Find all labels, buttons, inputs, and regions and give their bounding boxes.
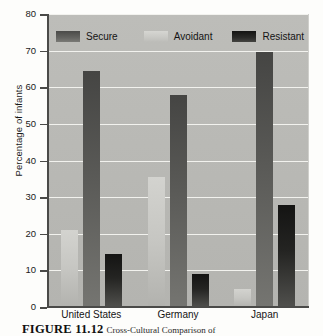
y-tick [40,87,47,89]
y-tick [40,14,47,16]
legend-swatch-resistant [232,31,256,42]
bar-germany-avoidant [148,177,165,307]
y-tick [40,197,47,199]
bar-japan-secure [256,52,273,307]
y-tick-label: 40 [2,155,36,166]
x-axis-line [47,306,309,308]
y-axis-title: Percentage of infants [13,51,24,211]
bar-united-states-secure [83,71,100,307]
y-tick [40,124,47,126]
y-tick-label: 10 [2,264,36,275]
bar-japan-resistant [278,205,295,307]
x-axis-label-united-states: United States [48,309,135,320]
y-tick-label: 70 [2,45,36,56]
bar-germany-resistant [192,274,209,307]
legend-label-avoidant: Avoidant [174,31,213,42]
legend-label-secure: Secure [86,31,118,42]
gridline [48,51,308,52]
legend-swatch-secure [56,31,80,42]
plot-area [48,14,309,307]
x-axis-label-japan: Japan [221,309,308,320]
y-tick [40,307,47,309]
bar-united-states-avoidant [61,230,78,307]
x-axis-label-germany: Germany [135,309,222,320]
legend-item-avoidant: Avoidant [144,31,213,42]
y-tick-label: 0 [2,301,36,312]
legend-item-resistant: Resistant [232,31,304,42]
legend-swatch-avoidant [144,31,168,42]
y-tick-label: 20 [2,228,36,239]
y-tick-label: 30 [2,191,36,202]
y-axis-line [47,14,49,308]
figure-number: FIGURE 11.12 [22,322,104,336]
gridline [48,14,308,15]
bar-germany-secure [170,95,187,307]
figure-container: Percentage of infants 01020304050607080 … [0,0,323,336]
caption-text: Cross-Cultural Comparison of [107,325,216,335]
y-tick [40,234,47,236]
plot-inner [48,14,308,307]
y-tick [40,270,47,272]
y-tick-label: 60 [2,81,36,92]
legend-label-resistant: Resistant [262,31,304,42]
y-tick-label: 80 [2,8,36,19]
legend-item-secure: Secure [56,31,118,42]
figure-caption: FIGURE 11.12Cross-Cultural Comparison of [22,322,322,336]
y-tick [40,51,47,53]
y-tick [40,161,47,163]
y-tick-label: 50 [2,118,36,129]
bar-japan-avoidant [234,289,251,307]
chart-legend: SecureAvoidantResistant [48,26,308,46]
bar-united-states-resistant [105,254,122,307]
